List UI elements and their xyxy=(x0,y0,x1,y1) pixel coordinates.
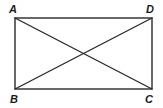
vertex-label-c: C xyxy=(145,93,154,105)
vertex-label-b: B xyxy=(10,93,18,105)
vertex-label-d: D xyxy=(146,3,154,15)
rectangle-diagram: A D B C xyxy=(0,0,163,108)
vertex-label-a: A xyxy=(8,3,17,15)
